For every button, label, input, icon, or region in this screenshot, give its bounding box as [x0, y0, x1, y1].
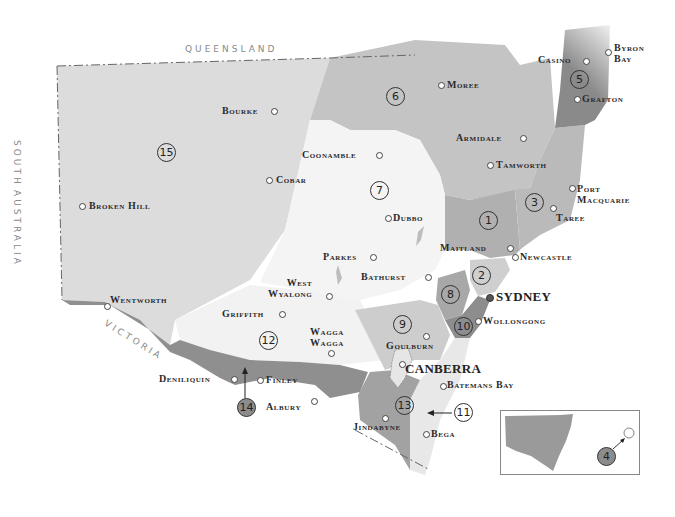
town-jindabyne[interactable]: Jindabyne: [353, 422, 401, 432]
town-dot-port-macquarie[interactable]: [569, 185, 576, 192]
town-dubbo[interactable]: Dubbo: [393, 213, 423, 223]
town-dot-albury[interactable]: [311, 398, 318, 405]
town-canberra[interactable]: CANBERRA: [405, 364, 481, 374]
town-dot-wollongong[interactable]: [475, 318, 482, 325]
region-marker-5[interactable]: 5: [570, 70, 589, 89]
town-dot-dubbo[interactable]: [385, 215, 392, 222]
town-sydney[interactable]: SYDNEY: [496, 292, 551, 302]
town-wollongong[interactable]: Wollongong: [483, 316, 546, 326]
town-grafton[interactable]: Grafton: [582, 94, 623, 104]
label-south: SOUTH: [12, 140, 22, 187]
town-dot-bourke[interactable]: [271, 108, 278, 115]
town-dot-maitland[interactable]: [507, 245, 514, 252]
town-albury[interactable]: Albury: [266, 402, 301, 412]
town-dot-parkes[interactable]: [370, 254, 377, 261]
town-dot-armidale[interactable]: [520, 135, 527, 142]
town-dot-sydney[interactable]: [486, 294, 494, 302]
label-queensland: QUEENSLAND: [185, 44, 278, 54]
town-dot-newcastle[interactable]: [512, 254, 519, 261]
town-dot-broken-hill[interactable]: [79, 203, 86, 210]
town-dot-moree[interactable]: [438, 82, 445, 89]
region-marker-13[interactable]: 13: [395, 396, 414, 415]
town-dot-byron-bay[interactable]: [605, 49, 612, 56]
town-bega[interactable]: Bega: [431, 429, 455, 439]
town-broken-hill[interactable]: Broken Hill: [89, 201, 150, 211]
town-port-macquarie[interactable]: Port Macquarie: [577, 183, 630, 205]
town-west-wyalong[interactable]: West Wyalong: [268, 277, 312, 299]
town-deniliquin[interactable]: Deniliquin: [159, 374, 210, 384]
region-marker-12[interactable]: 12: [259, 331, 278, 350]
town-dot-grafton[interactable]: [574, 96, 581, 103]
region-marker-14[interactable]: 14: [237, 398, 256, 417]
town-dot-bega[interactable]: [423, 431, 430, 438]
region-marker-1[interactable]: 1: [479, 211, 498, 230]
town-moree[interactable]: Moree: [447, 80, 479, 90]
region-marker-9[interactable]: 9: [393, 315, 412, 334]
region-marker-2[interactable]: 2: [472, 266, 491, 285]
town-byron-bay[interactable]: Byron Bay: [614, 42, 644, 64]
town-bourke[interactable]: Bourke: [222, 106, 258, 116]
town-coonamble[interactable]: Coonamble: [302, 150, 356, 160]
town-armidale[interactable]: Armidale: [456, 133, 502, 143]
town-dot-taree[interactable]: [550, 205, 557, 212]
town-newcastle[interactable]: Newcastle: [520, 252, 572, 262]
region-marker-10[interactable]: 10: [454, 317, 473, 336]
town-dot-casino[interactable]: [583, 58, 590, 65]
town-goulburn[interactable]: Goulburn: [386, 341, 434, 351]
town-bathurst[interactable]: Bathurst: [361, 272, 406, 282]
town-dot-tamworth[interactable]: [487, 162, 494, 169]
inset-nsw-shape: [501, 411, 639, 474]
region-marker-4[interactable]: 4: [597, 447, 616, 466]
town-wentworth[interactable]: Wentworth: [110, 295, 167, 305]
town-finley[interactable]: Finley: [266, 375, 298, 385]
town-batemans-bay[interactable]: Batemans Bay: [447, 380, 514, 390]
region-marker-7[interactable]: 7: [370, 181, 389, 200]
region-marker-8[interactable]: 8: [441, 285, 460, 304]
region-marker-11[interactable]: 11: [454, 403, 473, 422]
inset-locator-map: 4: [500, 410, 640, 475]
region-marker-15[interactable]: 15: [157, 143, 176, 162]
town-dot-batemans-bay[interactable]: [440, 383, 447, 390]
town-dot-bathurst[interactable]: [425, 274, 432, 281]
town-dot-finley[interactable]: [257, 377, 264, 384]
town-dot-coonamble[interactable]: [376, 152, 383, 159]
town-maitland[interactable]: Maitland: [440, 243, 487, 253]
town-tamworth[interactable]: Tamworth: [496, 160, 547, 170]
label-australia: AUSTRALIA: [12, 190, 22, 267]
town-casino[interactable]: Casino: [538, 55, 571, 65]
town-wagga-wagga[interactable]: Wagga Wagga: [310, 326, 344, 348]
region-marker-3[interactable]: 3: [525, 193, 544, 212]
region-marker-6[interactable]: 6: [386, 87, 405, 106]
town-dot-griffith[interactable]: [279, 311, 286, 318]
town-griffith[interactable]: Griffith: [222, 309, 264, 319]
town-parkes[interactable]: Parkes: [323, 252, 357, 262]
town-taree[interactable]: Taree: [556, 213, 585, 223]
town-cobar[interactable]: Cobar: [276, 175, 306, 185]
town-dot-west-wyalong[interactable]: [326, 293, 333, 300]
town-dot-cobar[interactable]: [266, 177, 273, 184]
town-dot-wagga-wagga[interactable]: [328, 350, 335, 357]
town-dot-goulburn[interactable]: [423, 333, 430, 340]
town-dot-deniliquin[interactable]: [231, 376, 238, 383]
